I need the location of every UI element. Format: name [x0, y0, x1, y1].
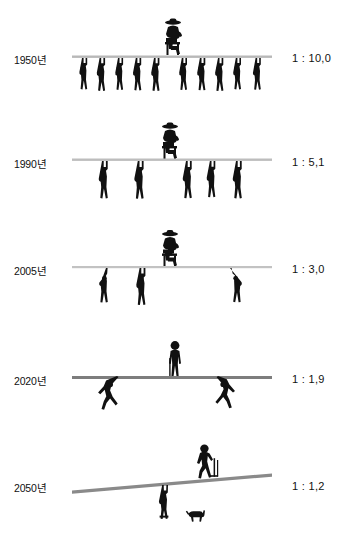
supporter-figure — [197, 58, 205, 90]
seated-elder-icon — [162, 230, 179, 267]
supporter-figure — [215, 376, 235, 408]
chart-row-2020: 2020년 1 : 1,9 — [0, 325, 349, 435]
chart-row-1950: 1950년 1 : 10,0 — [0, 0, 349, 120]
supporter-figure — [134, 161, 143, 199]
supporter-figure — [233, 161, 242, 198]
supporter-figure — [136, 268, 145, 305]
beam — [72, 266, 272, 268]
dog-icon — [186, 510, 205, 522]
seesaw-svg-2020 — [0, 325, 349, 435]
supporter-figure — [230, 268, 242, 302]
supporter-figure — [183, 161, 192, 198]
beam — [72, 159, 272, 161]
row-illustration — [0, 430, 349, 535]
chart-row-2050: 2050년 1 : 1,2 — [0, 430, 349, 535]
supporter-figure — [215, 58, 223, 91]
supporter-figure — [133, 58, 141, 90]
seesaw-svg-1950 — [0, 0, 349, 120]
beam — [72, 376, 272, 379]
seated-elder-icon — [165, 19, 182, 56]
supporter-figure — [115, 58, 123, 90]
seesaw-svg-1990 — [0, 105, 349, 220]
walking-elder-with-walker-icon — [197, 444, 218, 478]
row-illustration — [0, 215, 349, 325]
supporter-figure — [98, 376, 118, 410]
dependency-ratio-infographic: 1950년 1 : 10,0 — [0, 0, 349, 535]
supporter-figure — [179, 58, 187, 90]
row-illustration — [0, 105, 349, 215]
supporter-group — [99, 268, 242, 305]
supporter-figure — [97, 58, 105, 91]
beam — [72, 56, 272, 58]
supporter-group — [79, 58, 260, 91]
supporter-figure — [79, 58, 87, 89]
row-illustration — [0, 0, 349, 110]
chart-row-1990: 1990년 1 : 5,1 — [0, 105, 349, 220]
supporter-figure — [253, 58, 261, 90]
beam — [72, 474, 272, 494]
standing-elder-icon — [169, 341, 181, 377]
supporter-figure — [207, 161, 216, 197]
supporter-group — [98, 376, 235, 410]
supporter-group — [99, 161, 242, 199]
supporter-figure — [99, 161, 108, 198]
hanging-person-icon — [159, 485, 168, 519]
seesaw-svg-2005 — [0, 215, 349, 330]
supporter-figure — [99, 268, 108, 303]
supporter-figure — [151, 58, 159, 91]
seesaw-svg-2050 — [0, 430, 349, 535]
row-illustration — [0, 325, 349, 435]
supporter-figure — [233, 58, 241, 89]
seated-elder-icon — [162, 123, 179, 160]
chart-row-2005: 2005년 1 : 3,0 — [0, 215, 349, 330]
